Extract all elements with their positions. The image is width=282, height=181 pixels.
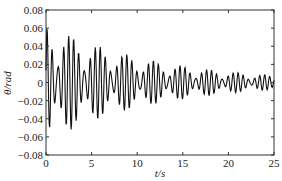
y-tick-label: −0.08 [18,149,44,161]
y-tick-label: 0 [38,77,44,89]
x-tick-label: 15 [177,157,189,169]
time-series-chart: 0510152025 −0.08−0.06−0.04−0.0200.020.04… [0,0,282,181]
signal-line [46,29,274,130]
y-tick-label: −0.04 [18,113,44,125]
x-tick-label: 25 [269,157,281,169]
x-tick-label: 20 [223,157,235,169]
y-tick-label: 0.08 [24,4,44,16]
y-axis-label: θ/rad [1,71,13,95]
x-tick-label: 10 [132,157,144,169]
y-tick-label: 0.04 [24,40,44,52]
y-tick-label: 0.06 [24,22,44,34]
y-tick-label: 0.02 [24,58,43,70]
x-axis-label: t/s [155,167,165,179]
plot-area [46,10,274,155]
y-tick-label: −0.06 [18,131,44,143]
y-tick-label: −0.02 [18,95,43,107]
x-tick-label: 0 [43,157,49,169]
x-tick-label: 5 [89,157,95,169]
